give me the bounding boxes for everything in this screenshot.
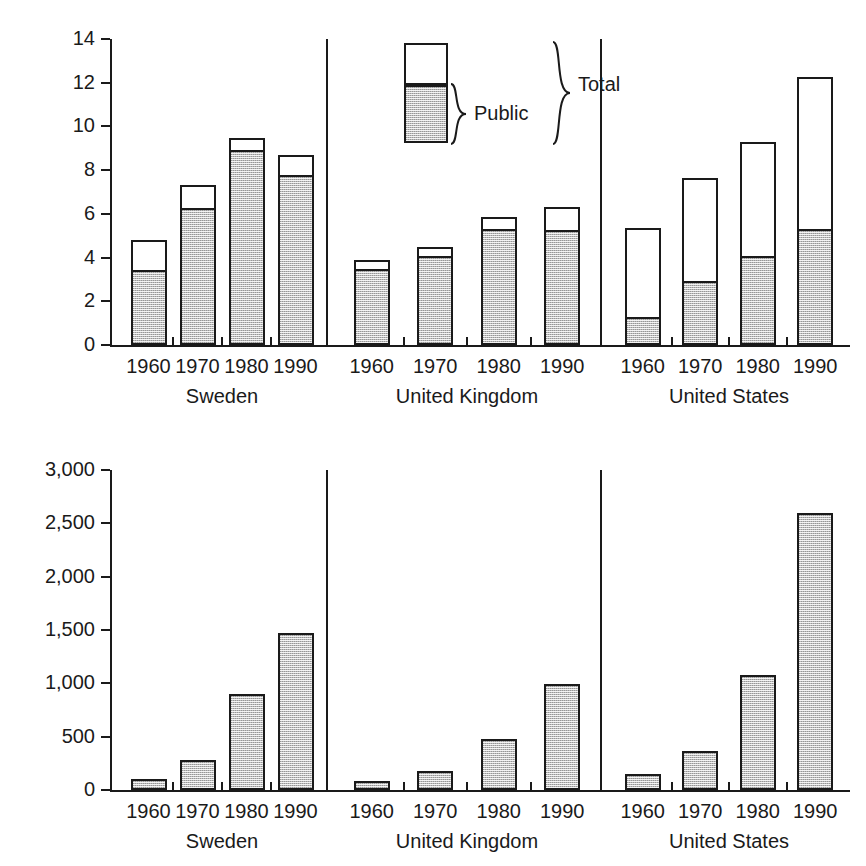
x-axis-tick [530,337,532,345]
y-axis-tick [101,682,110,684]
bar-public [417,256,453,345]
bar-public [544,230,580,345]
group-separator-1 [326,470,328,790]
bar-public [481,229,517,345]
bar-value [354,781,390,790]
x-axis-tick [270,782,272,790]
y-axis-tick [101,82,110,84]
x-axis-tick [671,782,673,790]
y-axis-tick-label: 3,000 [5,459,95,479]
x-axis-tick [786,782,788,790]
x-axis-tick [221,782,223,790]
bar-value [682,751,718,790]
x-axis-tick [270,337,272,345]
y-axis-tick [101,469,110,471]
bar-public [625,317,661,345]
y-axis-tick [101,789,110,791]
bar-public [229,150,265,345]
bar-public [682,281,718,345]
x-axis-tick [403,337,405,345]
x-axis-tick [466,337,468,345]
x-axis-tick [671,337,673,345]
y-axis-tick [101,213,110,215]
x-axis-category-label: 1990 [256,355,336,378]
y-axis-tick-label: 0 [5,334,95,354]
figure-root: 02468101214% GDP1960197019801990Sweden19… [0,0,866,866]
bar-public [278,175,314,345]
x-axis-category-label: 1990 [256,800,336,823]
group-separator-1 [326,39,328,345]
y-axis-tick-label: 500 [5,726,95,746]
group-separator-2 [600,470,602,790]
y-axis-line [110,470,112,792]
y-axis-tick [101,169,110,171]
y-axis-tick-label: 2,500 [5,512,95,532]
bar-value [797,513,833,790]
bar-public [354,269,390,346]
bar-value [278,633,314,790]
x-axis-category-label: 1990 [522,800,602,823]
y-axis-tick [101,522,110,524]
bar-value [481,739,517,790]
y-axis-tick-label: 4 [5,247,95,267]
y-axis-tick-label: 1,500 [5,619,95,639]
legend-brace-total [552,41,572,145]
y-axis-tick-label: 2,000 [5,566,95,586]
legend-brace-public [450,83,468,145]
y-axis-tick [101,300,110,302]
y-axis-tick [101,257,110,259]
x-axis-category-label: 1990 [775,800,855,823]
x-axis-tick [221,337,223,345]
y-axis-tick [101,38,110,40]
y-axis-tick [101,629,110,631]
group-label: United Kingdom [347,830,587,853]
y-axis-line [110,39,112,347]
y-axis-tick [101,576,110,578]
y-axis-tick-label: 8 [5,159,95,179]
x-axis-line [110,345,850,347]
legend-label-total: Total [578,73,620,96]
y-axis-tick-label: 0 [5,779,95,799]
group-label: Sweden [102,830,342,853]
group-label: United States [609,385,849,408]
y-axis-tick-label: 14 [5,28,95,48]
x-axis-category-label: 1990 [522,355,602,378]
scan-artifact-top-edge [0,2,866,12]
x-axis-tick [530,782,532,790]
group-label: United States [609,830,849,853]
bar-value [229,694,265,790]
bar-public [797,229,833,345]
bar-value [417,771,453,790]
bar-value [625,774,661,790]
x-axis-tick [728,782,730,790]
x-axis-line [110,790,850,792]
bar-value [131,779,167,790]
y-axis-tick-label: 2 [5,290,95,310]
bar-value [544,684,580,790]
y-axis-tick-label: 12 [5,72,95,92]
x-axis-tick [172,782,174,790]
x-axis-tick [403,782,405,790]
bar-public [180,208,216,345]
y-axis-tick [101,125,110,127]
legend-swatch-total [404,43,448,85]
x-axis-category-label: 1990 [775,355,855,378]
y-axis-tick-label: 6 [5,203,95,223]
x-axis-tick [466,782,468,790]
group-label: Sweden [102,385,342,408]
legend-label-public: Public [474,102,528,125]
bar-public [740,256,776,345]
bar-value [740,675,776,790]
y-axis-tick-label: 10 [5,115,95,135]
bar-value [180,760,216,790]
x-axis-tick [786,337,788,345]
x-axis-tick [728,337,730,345]
y-axis-tick [101,736,110,738]
y-axis-tick-label: 1,000 [5,672,95,692]
x-axis-tick [172,337,174,345]
legend-swatch-public [404,85,448,143]
group-label: United Kingdom [347,385,587,408]
y-axis-tick [101,344,110,346]
bar-public [131,270,167,345]
